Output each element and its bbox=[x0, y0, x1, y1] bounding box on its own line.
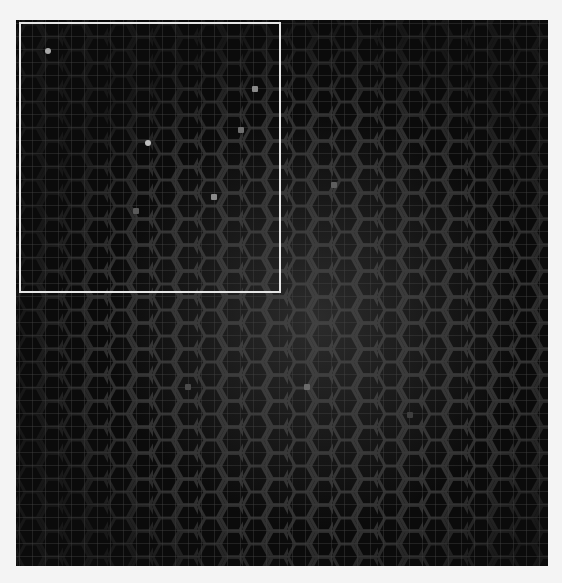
point-marker[interactable] bbox=[133, 208, 139, 214]
point-marker[interactable] bbox=[211, 194, 217, 200]
point-marker[interactable] bbox=[252, 86, 258, 92]
point-marker[interactable] bbox=[145, 140, 151, 146]
point-marker[interactable] bbox=[304, 384, 310, 390]
selection-rectangle[interactable] bbox=[19, 22, 281, 293]
point-marker[interactable] bbox=[331, 182, 337, 188]
point-marker[interactable] bbox=[407, 412, 413, 418]
game-board[interactable] bbox=[16, 20, 548, 566]
point-marker[interactable] bbox=[45, 48, 51, 54]
point-marker[interactable] bbox=[185, 384, 191, 390]
point-marker[interactable] bbox=[238, 127, 244, 133]
